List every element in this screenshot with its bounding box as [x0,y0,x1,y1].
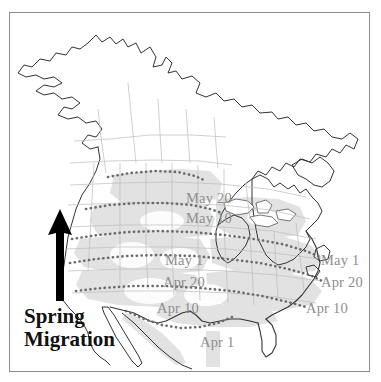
legend-line-1: Spring [24,305,115,328]
spring-migration-legend: Spring Migration [24,305,115,350]
date-label-central-may-1: May 1 [165,253,203,268]
map-frame-border: Spring Migration May 20May 10May 1Apr 20… [9,12,370,372]
date-label-central-apr-20: Apr 20 [163,275,205,290]
date-label-central-apr-10: Apr 10 [157,301,199,316]
date-label-central-apr-1: Apr 1 [200,335,234,350]
date-label-east-apr-20: Apr 20 [321,275,363,290]
migration-map-figure: Spring Migration May 20May 10May 1Apr 20… [0,0,381,382]
date-label-east-apr-10: Apr 10 [306,301,348,316]
legend-line-2: Migration [24,328,115,351]
date-label-central-may-20: May 20 [186,191,232,206]
north-arrow [40,205,80,305]
date-label-central-may-10: May 10 [186,211,232,226]
date-label-east-may-1: May 1 [321,253,359,268]
